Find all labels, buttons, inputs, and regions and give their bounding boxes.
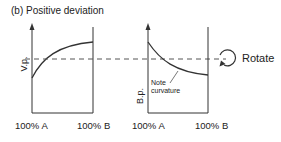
left-x-label-a: 100% A — [15, 120, 48, 131]
diagram-canvas: V.p. 100% A 100% B Note curvature B.p. 1… — [0, 0, 281, 142]
annotation-leader-line — [170, 71, 178, 83]
rotate-label: Rotate — [242, 52, 274, 64]
left-plot: V.p. 100% A 100% B — [15, 23, 110, 131]
vapor-pressure-curve — [32, 42, 93, 78]
rotate-icon — [220, 50, 236, 67]
right-plot: Note curvature B.p. 100% A 100% B — [132, 23, 228, 131]
right-y-label: B.p. — [135, 88, 145, 104]
left-x-label-b: 100% B — [77, 120, 110, 131]
right-y-axis-arrow-icon — [146, 23, 151, 30]
annotation-curvature: curvature — [151, 87, 180, 94]
annotation-note: Note — [151, 79, 166, 86]
right-x-label-a: 100% A — [132, 120, 165, 131]
left-y-axis-arrow-icon — [30, 23, 35, 30]
right-x-label-b: 100% B — [195, 120, 228, 131]
